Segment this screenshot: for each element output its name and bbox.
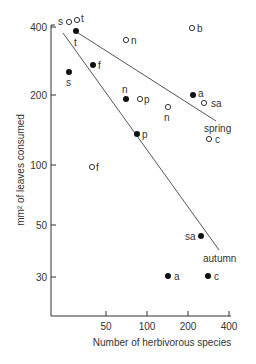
autumn-point-n [123, 96, 129, 102]
label-filled-n: n [122, 84, 128, 95]
autumn-point-f [90, 62, 96, 68]
scatter-chart: 400 200 100 50 30 50 100 200 400 Number … [0, 0, 256, 364]
spring-point-b [189, 25, 194, 30]
label-filled-sa: sa [185, 231, 196, 242]
spring-point-n-top [123, 37, 128, 42]
autumn-point-s [66, 69, 72, 75]
label-open-p: p [144, 94, 150, 105]
autumn-point-sa [198, 233, 204, 239]
spring-point-p [137, 96, 142, 101]
spring-point-c [206, 136, 211, 141]
spring-point-sa [201, 100, 206, 105]
label-open-b: b [197, 23, 203, 34]
spring-point-t [74, 17, 79, 22]
label-open-f: f [96, 162, 99, 173]
x-tick-50: 50 [100, 321, 112, 332]
spring-trendline [75, 31, 216, 121]
label-filled-s: s [66, 77, 71, 88]
y-tick-100: 100 [30, 160, 47, 171]
label-open-sa: sa [211, 98, 222, 109]
label-filled-t: t [74, 37, 77, 48]
autumn-label: autumn [203, 253, 236, 264]
x-tick-400: 400 [221, 321, 238, 332]
x-tick-200: 200 [180, 321, 197, 332]
spring-point-n-mid [165, 104, 170, 109]
y-tick-400: 400 [30, 22, 47, 33]
spring-point-f [89, 164, 94, 169]
label-open-s: s [58, 16, 63, 27]
spring-point-s [66, 19, 71, 24]
label-filled-c: c [214, 271, 219, 282]
x-axis-title: Number of herbivorous species [93, 337, 231, 348]
autumn-point-a-bottom [165, 273, 171, 279]
y-tick-50: 50 [36, 220, 48, 231]
label-open-t: t [81, 13, 84, 24]
spring-label: spring [204, 123, 231, 134]
autumn-point-p [134, 131, 140, 137]
x-tick-100: 100 [139, 321, 156, 332]
axes [51, 25, 231, 316]
label-filled-p: p [142, 129, 148, 140]
label-open-n-top: n [131, 35, 137, 46]
y-tick-30: 30 [36, 272, 48, 283]
label-open-n-mid: n [164, 112, 170, 123]
label-open-c: c [215, 134, 220, 145]
autumn-point-a-top [190, 92, 196, 98]
autumn-point-t [73, 28, 79, 34]
autumn-point-c [205, 273, 211, 279]
y-axis-title: mm² of leaves consumed [15, 114, 26, 226]
y-tick-200: 200 [30, 90, 47, 101]
autumn-trendline [63, 33, 219, 250]
label-filled-f: f [98, 60, 101, 71]
label-filled-a-top: a [198, 88, 204, 99]
spring-series [66, 17, 211, 169]
label-filled-a-bottom: a [174, 271, 180, 282]
